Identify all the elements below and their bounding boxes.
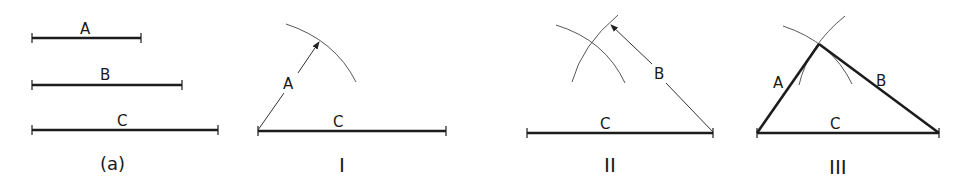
side-a-label: A	[773, 74, 784, 92]
segment-b: B	[32, 66, 182, 90]
radius-a-arrow	[298, 42, 319, 73]
base-c-label: C	[333, 113, 343, 131]
side-a	[757, 44, 819, 133]
panel-a-given-segments: A B C (a)	[32, 20, 218, 174]
arc-radius-a	[783, 26, 852, 84]
side-b-label: B	[876, 72, 886, 90]
panel-i-caption: I	[339, 153, 345, 177]
radius-a-label: A	[283, 75, 294, 93]
segment-a: A	[32, 20, 141, 43]
radius-b-line-lower	[666, 83, 713, 132]
panel-ii-step-two: C B II	[527, 15, 713, 177]
segment-b-label: B	[100, 66, 110, 84]
segment-a-label: A	[80, 20, 91, 38]
radius-b-label: B	[654, 65, 664, 83]
panel-i-step-one: C A I	[258, 24, 446, 177]
arc-radius-a	[286, 24, 356, 82]
radius-b-arrow	[611, 25, 652, 64]
base-c-label: C	[600, 115, 610, 133]
panel-iii-completed-triangle: C A B III	[757, 16, 939, 179]
segment-c: C	[32, 112, 218, 135]
arc-radius-b	[799, 16, 845, 85]
triangle-construction-diagram: A B C (a) C A I C	[0, 0, 969, 183]
base-c-label: C	[830, 115, 840, 133]
panel-a-caption: (a)	[100, 153, 125, 174]
panel-ii-caption: II	[604, 153, 616, 177]
arc-radius-a	[556, 25, 625, 83]
panel-iii-caption: III	[829, 155, 847, 179]
segment-c-label: C	[117, 112, 127, 130]
radius-a-line-lower	[258, 93, 284, 130]
